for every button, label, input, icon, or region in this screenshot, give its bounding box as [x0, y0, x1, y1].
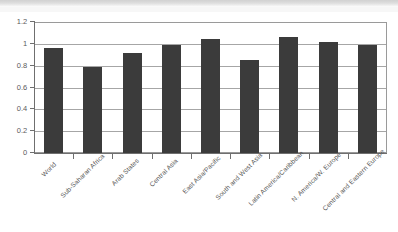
y-tick-0.6: [30, 87, 35, 88]
y-axis-tick-label: 0.8: [0, 61, 27, 70]
y-axis-tick-label: 0.2: [0, 126, 27, 135]
y-tick-0: [30, 152, 35, 153]
y-axis-tick-label: 0: [0, 148, 27, 157]
y-axis-tick-label: 1: [0, 39, 27, 48]
y-tick-1.2: [30, 21, 35, 22]
y-axis-tick-label: 0.4: [0, 104, 27, 113]
x-tick: [112, 154, 113, 159]
y-axis-tick-label: 0.6: [0, 83, 27, 92]
y-tick-0.2: [30, 130, 35, 131]
x-tick: [269, 154, 270, 159]
y-tick-0.4: [30, 108, 35, 109]
y-tick-0.8: [30, 65, 35, 66]
y-axis-tick-label: 1.2: [0, 17, 27, 26]
x-tick: [348, 154, 349, 159]
y-axis-labels: 00.20.40.60.811.2: [0, 0, 398, 232]
y-tick-1: [30, 43, 35, 44]
x-tick: [152, 154, 153, 159]
bar-chart: 00.20.40.60.811.2 WorldSub-Saharan Afric…: [0, 0, 398, 232]
x-tick: [73, 154, 74, 159]
x-tick: [309, 154, 310, 159]
x-tick: [191, 154, 192, 159]
x-tick: [230, 154, 231, 159]
